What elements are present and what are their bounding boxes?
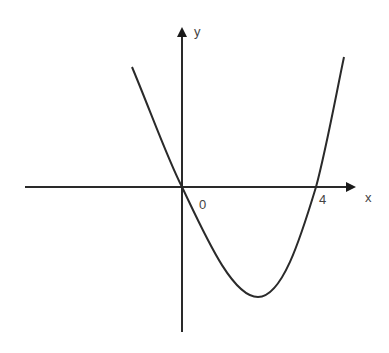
root-label: 4 bbox=[319, 192, 326, 207]
parabola-curve bbox=[132, 57, 344, 297]
x-axis-label: x bbox=[365, 190, 372, 205]
y-axis-label: y bbox=[194, 24, 201, 39]
graph-canvas bbox=[0, 0, 389, 353]
origin-label: 0 bbox=[199, 197, 206, 212]
